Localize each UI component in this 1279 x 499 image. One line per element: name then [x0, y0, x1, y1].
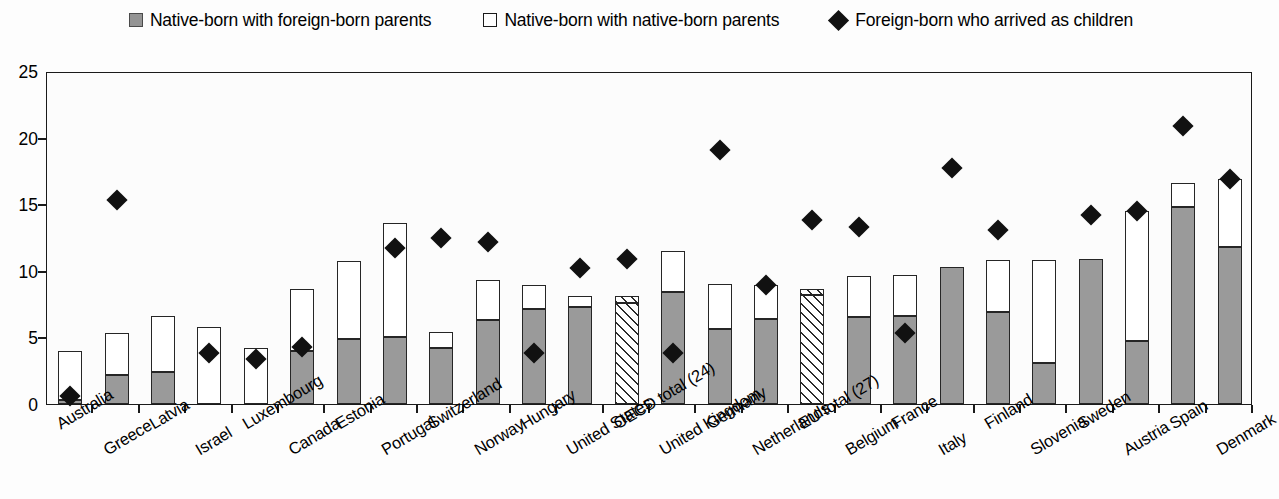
bar-group: [1032, 73, 1056, 404]
y-axis: 0510152025: [0, 0, 46, 499]
bar-group: [940, 73, 964, 404]
bar-segment-native-born-parents: [151, 316, 175, 372]
bar-segment-native-born-parents: [476, 280, 500, 320]
y-axis-tick-label: 15: [19, 195, 38, 216]
bar-segment-native-born-parents: [1032, 260, 1056, 363]
legend-label-1: Native-born with native-born parents: [504, 10, 779, 31]
bar-segment-native-born-parents: [522, 285, 546, 309]
bar-segment-foreign-born-parents: [1079, 259, 1103, 404]
x-axis-tick: [602, 405, 604, 413]
bar-segment-aggregate: [800, 295, 824, 404]
plot-area: [46, 72, 1252, 405]
bar-segment-foreign-born-parents: [940, 267, 964, 404]
legend-item-native-native-parents: Native-born with native-born parents: [483, 10, 779, 31]
bar-group: [893, 73, 917, 404]
bar-segment-native-born-parents: [661, 251, 685, 292]
y-axis-tick-label: 10: [19, 261, 38, 282]
x-axis-tick: [787, 405, 789, 413]
bar-segment-foreign-born-parents: [1032, 363, 1056, 404]
y-axis-tick-label: 0: [28, 395, 38, 416]
bar-segment-native-born-parents: [337, 261, 361, 338]
bar-group: [800, 73, 824, 404]
bar-group: [708, 73, 732, 404]
bar-segment-native-born-parents: [847, 276, 871, 317]
bar-segment-native-born-parents: [429, 332, 453, 348]
bar-segment-aggregate-top: [800, 289, 824, 294]
bar-group: [151, 73, 175, 404]
x-axis-tick: [323, 405, 325, 413]
bar-segment-foreign-born-parents: [1171, 207, 1195, 404]
x-axis-label: Greece: [100, 416, 155, 460]
bar-group: [615, 73, 639, 404]
bar-segment-native-born-parents: [1125, 211, 1149, 342]
bar-segment-foreign-born-parents: [986, 312, 1010, 404]
bar-group: [1125, 73, 1149, 404]
white-square-icon: [483, 13, 497, 27]
bar-group: [1079, 73, 1103, 404]
legend-item-native-foreign-parents: Native-born with foreign-born parents: [129, 10, 432, 31]
x-axis-tick: [416, 405, 418, 413]
bar-group: [58, 73, 82, 404]
bar-segment-foreign-born-parents: [337, 339, 361, 404]
bar-segment-native-born-parents: [1171, 183, 1195, 207]
chart-legend: Native-born with foreign-born parents Na…: [0, 6, 1262, 34]
legend-label-0: Native-born with foreign-born parents: [150, 10, 432, 31]
x-axis-tick: [1158, 405, 1160, 413]
x-axis-label: Israel: [192, 423, 235, 459]
x-axis-label: Austria: [1120, 417, 1173, 459]
bar-group: [754, 73, 778, 404]
y-axis-tick-label: 25: [19, 62, 38, 83]
legend-label-2: Foreign-born who arrived as children: [855, 10, 1133, 31]
bar-segment-aggregate: [615, 303, 639, 404]
bar-group: [105, 73, 129, 404]
x-axis-tick: [973, 405, 975, 413]
bar-segment-native-born-parents: [197, 327, 221, 404]
gray-square-icon: [129, 13, 143, 27]
bar-group: [1218, 73, 1242, 404]
bar-segment-foreign-born-parents: [151, 372, 175, 404]
bar-segment-native-born-parents: [708, 284, 732, 329]
x-axis-tick: [1065, 405, 1067, 413]
x-axis-tick: [509, 405, 511, 413]
bar-segment-native-born-parents: [893, 275, 917, 316]
bar-segment-native-born-parents: [105, 333, 129, 374]
x-axis-tick: [231, 405, 233, 413]
y-axis-tick-label: 5: [28, 328, 38, 349]
bar-segment-foreign-born-parents: [383, 337, 407, 404]
bar-group: [337, 73, 361, 404]
bars-layer: [47, 73, 1251, 404]
x-axis-tick: [694, 405, 696, 413]
x-axis-tick: [880, 405, 882, 413]
bar-segment-aggregate-top: [615, 296, 639, 303]
x-axis-label: Denmark: [1213, 409, 1279, 459]
bar-segment-foreign-born-parents: [429, 348, 453, 404]
bar-segment-native-born-parents: [986, 260, 1010, 312]
x-axis-label: Italy: [935, 428, 970, 459]
y-axis-tick-label: 20: [19, 128, 38, 149]
black-diamond-icon: [828, 9, 849, 30]
bar-group: [568, 73, 592, 404]
legend-item-foreign-born-children: Foreign-born who arrived as children: [831, 10, 1133, 31]
bar-segment-native-born-parents: [568, 296, 592, 307]
bar-segment-foreign-born-parents: [1218, 247, 1242, 404]
x-axis-tick: [138, 405, 140, 413]
x-axis-tick: [1251, 405, 1253, 413]
bar-group: [847, 73, 871, 404]
